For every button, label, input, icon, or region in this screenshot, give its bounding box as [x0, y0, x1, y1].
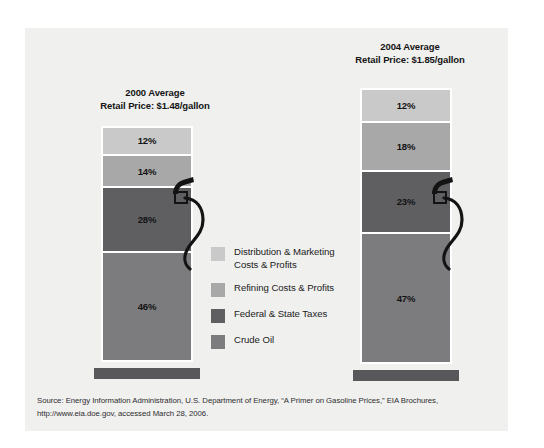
- legend-label-taxes: Federal & State Taxes: [234, 308, 327, 321]
- pump-2004: 12% 18% 23% 47%: [360, 88, 452, 380]
- pump-title-2004: 2004 Average Retail Price: $1.85/gallon: [315, 40, 505, 66]
- pump-2004-segment-distribution[interactable]: 12%: [362, 90, 450, 123]
- legend-item-taxes[interactable]: Federal & State Taxes: [211, 308, 356, 323]
- legend-item-refining[interactable]: Refining Costs & Profits: [211, 282, 356, 297]
- pump-2000-segment-distribution[interactable]: 12%: [103, 128, 191, 156]
- legend-item-crude[interactable]: Crude Oil: [211, 334, 356, 349]
- source-note-line1: Source: Energy Information Administratio…: [37, 395, 507, 408]
- legend-swatch-distribution: [211, 247, 225, 261]
- source-note-line2: http://www.eia.doe.gov, accessed March 2…: [37, 408, 507, 421]
- pump-2000-label-distribution: 12%: [138, 135, 157, 146]
- pump-2004-label-refining: 18%: [397, 141, 416, 152]
- legend-label-distribution-line1: Distribution & Marketing: [234, 246, 335, 259]
- pump-title-2004-line2: Retail Price: $1.85/gallon: [315, 53, 505, 66]
- legend-label-crude: Crude Oil: [234, 334, 274, 347]
- legend-label-refining: Refining Costs & Profits: [234, 282, 334, 295]
- pump-2000-label-crude: 46%: [138, 301, 157, 312]
- legend-label-distribution: Distribution & Marketing Costs & Profits: [234, 246, 335, 271]
- pump-2004-label-distribution: 12%: [397, 100, 416, 111]
- pump-2000-segment-crude[interactable]: 46%: [103, 253, 191, 360]
- pump-2004-base: [353, 370, 459, 381]
- pump-2000-segment-taxes[interactable]: 28%: [103, 188, 191, 253]
- pump-title-2004-line1: 2004 Average: [315, 40, 505, 53]
- gasoline-price-infographic: 2000 Average Retail Price: $1.48/gallon …: [0, 0, 544, 448]
- legend-swatch-taxes: [211, 309, 225, 323]
- pump-title-2000-line2: Retail Price: $1.48/gallon: [60, 99, 250, 112]
- pump-2000: 12% 14% 28% 46%: [101, 126, 193, 378]
- pump-2000-body: 12% 14% 28% 46%: [101, 126, 193, 362]
- pump-2004-label-crude: 47%: [397, 293, 416, 304]
- legend: Distribution & Marketing Costs & Profits…: [211, 246, 356, 360]
- pump-2000-segment-refining[interactable]: 14%: [103, 156, 191, 188]
- pump-2000-base: [94, 368, 200, 379]
- pump-2000-label-refining: 14%: [138, 166, 157, 177]
- legend-swatch-crude: [211, 335, 225, 349]
- pump-title-2000: 2000 Average Retail Price: $1.48/gallon: [60, 86, 250, 112]
- pump-2000-label-taxes: 28%: [138, 214, 157, 225]
- legend-label-distribution-line2: Costs & Profits: [234, 259, 335, 272]
- legend-item-distribution[interactable]: Distribution & Marketing Costs & Profits: [211, 246, 356, 271]
- pump-2004-label-taxes: 23%: [397, 196, 416, 207]
- source-note: Source: Energy Information Administratio…: [37, 395, 507, 420]
- legend-swatch-refining: [211, 283, 225, 297]
- pump-2004-segment-crude[interactable]: 47%: [362, 234, 450, 362]
- pump-2004-segment-refining[interactable]: 18%: [362, 123, 450, 172]
- pump-2004-body: 12% 18% 23% 47%: [360, 88, 452, 364]
- pump-title-2000-line1: 2000 Average: [60, 86, 250, 99]
- pump-2004-segment-taxes[interactable]: 23%: [362, 172, 450, 235]
